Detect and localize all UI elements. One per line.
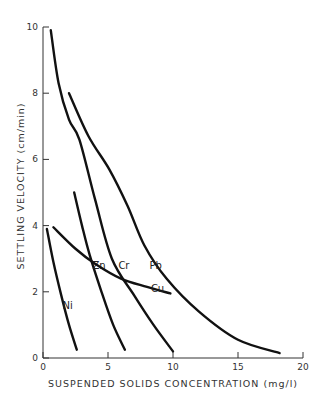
x-tick-label: 15 — [232, 362, 243, 372]
series-label-ni: Ni — [63, 300, 73, 311]
settling-velocity-chart: 051015200246810NiZnCrPbCu SUSPENDED SOLI… — [0, 0, 327, 407]
y-tick-label: 0 — [32, 353, 38, 363]
x-tick-label: 20 — [297, 362, 309, 372]
y-tick-label: 8 — [32, 88, 38, 98]
series-label-pb: Pb — [150, 260, 162, 271]
x-axis-title: SUSPENDED SOLIDS CONCENTRATION (mg/l) — [48, 378, 298, 389]
x-tick-label: 5 — [105, 362, 111, 372]
y-tick-label: 10 — [27, 22, 39, 32]
series-label-cu: Cu — [151, 283, 164, 294]
series-label-cr: Cr — [118, 260, 130, 271]
x-tick-label: 10 — [167, 362, 179, 372]
x-tick-label: 0 — [40, 362, 46, 372]
y-axis-title: SETTLING VELOCITY (cm/min) — [15, 102, 26, 269]
y-tick-label: 6 — [32, 154, 38, 164]
y-tick-label: 2 — [32, 287, 38, 297]
plot-area: 051015200246810NiZnCrPbCu — [27, 22, 309, 372]
y-tick-label: 4 — [32, 221, 38, 231]
